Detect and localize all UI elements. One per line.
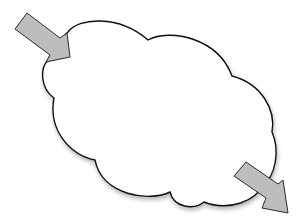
arrow-in-icon <box>15 13 70 62</box>
diagram-svg <box>0 0 305 220</box>
diagram-canvas <box>0 0 305 220</box>
